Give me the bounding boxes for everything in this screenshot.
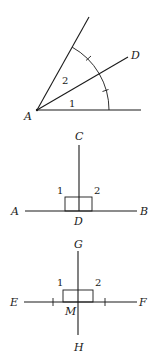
figure-perpendicular: C A B D 1 2: [10, 130, 148, 228]
label-H: H: [73, 341, 84, 354]
label-angle-2: 2: [62, 75, 68, 86]
vertex-dot: [36, 109, 38, 111]
ray-AD: [37, 57, 128, 110]
label-angle-1: 1: [69, 98, 75, 109]
label-A: A: [23, 110, 32, 123]
label-angle-1: 1: [57, 185, 63, 196]
label-F: F: [138, 296, 147, 309]
label-D: D: [73, 215, 83, 228]
label-G: G: [74, 238, 83, 251]
geometry-diagram: A D 2 1 C A B D 1 2 G E F M H 1 2: [0, 0, 156, 360]
label-M: M: [64, 305, 77, 318]
label-A: A: [10, 205, 19, 218]
figure-angle-bisector: A D 2 1: [23, 17, 141, 123]
label-D: D: [130, 49, 140, 62]
arc-tick-lower: [103, 90, 109, 92]
figure-perpendicular-bisector: G E F M H 1 2: [9, 238, 147, 354]
label-B: B: [139, 205, 148, 218]
label-C: C: [75, 130, 84, 143]
label-angle-1: 1: [57, 277, 63, 288]
ray-upper: [37, 17, 89, 110]
label-angle-2: 2: [95, 277, 101, 288]
label-angle-2: 2: [94, 185, 100, 196]
label-E: E: [9, 296, 18, 309]
